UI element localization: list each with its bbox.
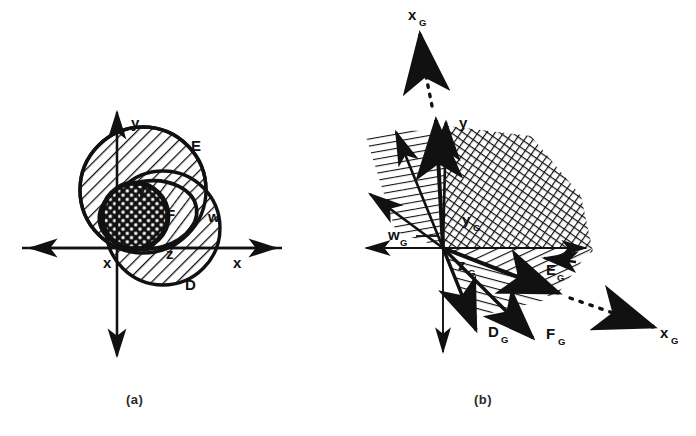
label-xG-top-sub: G <box>419 17 426 28</box>
label-wG-sub: G <box>400 237 407 248</box>
label-x-right-b: x <box>566 247 573 261</box>
label-zG: z <box>458 256 466 273</box>
panel-b-graphic: x G y w G y G z G D G F G E G x <box>348 0 696 436</box>
label-point-z: z <box>166 245 174 262</box>
label-DG: D <box>488 323 499 340</box>
label-yG-sub: G <box>473 222 480 233</box>
label-region-F: F <box>166 206 175 223</box>
label-region-E: E <box>191 137 201 154</box>
axis-xG-lower-far <box>616 314 654 327</box>
label-wG: w <box>387 226 400 243</box>
label-point-x-right: x <box>233 254 242 271</box>
label-zG-sub: G <box>468 267 475 278</box>
panel-a-graphic: y E D F y x x z w <box>0 0 348 436</box>
label-point-x-left: x <box>103 254 112 271</box>
axis-xG-upper-dotted <box>424 66 432 106</box>
caption-panel-a: (a) <box>126 392 143 407</box>
axis-xG-upper-far <box>420 34 424 70</box>
axis-xG-lower-dotted <box>570 298 616 314</box>
label-point-w: w <box>207 208 220 225</box>
figure-root: y E D F y x x z w <box>0 0 696 436</box>
label-xG-bottom: x <box>660 324 669 341</box>
label-DG-sub: G <box>501 334 508 345</box>
panel-b: x G y w G y G z G D G F G E G x <box>348 0 696 436</box>
label-yG: y <box>462 211 471 228</box>
panel-a: y E D F y x x z w <box>0 0 348 436</box>
label-region-D: D <box>185 276 196 293</box>
label-y-axis-b: y <box>459 114 468 131</box>
label-EG: E <box>546 261 556 278</box>
label-FG-sub: G <box>558 336 565 347</box>
label-FG: F <box>546 325 555 342</box>
region-F-core <box>102 183 168 249</box>
caption-panel-b: (b) <box>474 392 492 407</box>
label-xG-top: x <box>408 6 417 23</box>
label-point-y: y <box>137 182 146 199</box>
label-xG-bottom-sub: G <box>671 335 678 346</box>
label-EG-sub: G <box>557 272 564 283</box>
label-y-axis-a: y <box>131 114 140 131</box>
